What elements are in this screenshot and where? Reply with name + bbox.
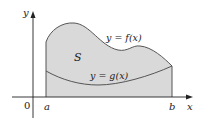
curve-f-label: y = f(x) (105, 32, 142, 43)
origin-label: 0 (24, 100, 30, 111)
y-axis-arrow-icon (31, 11, 36, 18)
curve-g-label: y = g(x) (89, 70, 129, 81)
b-label: b (169, 101, 175, 112)
area-between-curves-diagram: y x 0 a b S y = f(x) y = g(x) (0, 0, 203, 121)
x-axis-arrow-icon (186, 95, 193, 100)
x-axis-label: x (187, 101, 193, 112)
y-axis-label: y (22, 7, 29, 18)
a-label: a (44, 101, 50, 112)
region-label: S (74, 51, 82, 64)
